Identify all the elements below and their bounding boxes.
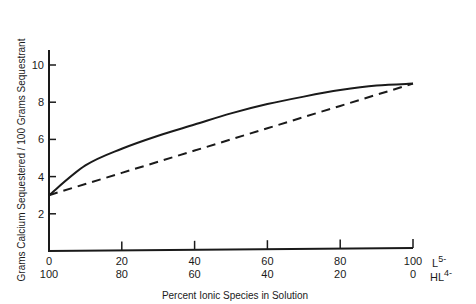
x-species-secondary: HL4- <box>430 268 452 283</box>
y-ticks: 246810 <box>32 59 56 220</box>
x-axis <box>48 248 413 251</box>
y-tick-label: 8 <box>38 96 44 108</box>
chart: 246810 010020804060604080201000 L5- HL4-… <box>0 0 476 304</box>
x-species-primary: L5- <box>432 254 446 269</box>
x-tick-label-primary: 40 <box>188 255 200 267</box>
y-tick-label: 10 <box>32 59 44 71</box>
y-tick: 2 <box>38 208 56 220</box>
x-tick-label-primary: 20 <box>116 255 128 267</box>
x-axis-title: Percent Ionic Species in Solution <box>162 290 308 301</box>
x-tick: 2080 <box>116 241 128 280</box>
x-tick-label-secondary: 60 <box>188 268 200 280</box>
y-tick-label: 2 <box>38 208 44 220</box>
x-tick-label-primary: 0 <box>46 255 52 267</box>
x-tick-label-primary: 60 <box>261 255 273 267</box>
x-tick-label-secondary: 100 <box>40 268 58 280</box>
y-tick: 10 <box>32 59 56 71</box>
x-tick: 0100 <box>40 255 58 280</box>
series-layer <box>49 84 413 196</box>
x-tick-label-secondary: 80 <box>116 268 128 280</box>
y-tick: 8 <box>38 96 56 108</box>
y-tick: 6 <box>38 133 56 145</box>
x-tick-label-primary: 80 <box>334 255 346 267</box>
x-ticks: 010020804060604080201000 <box>40 239 422 280</box>
dashed-line <box>49 84 413 196</box>
x-tick: 1000 <box>404 239 422 280</box>
x-tick-label-secondary: 20 <box>334 268 346 280</box>
y-tick-label: 4 <box>38 171 44 183</box>
x-tick: 6040 <box>261 240 273 280</box>
x-tick-label-primary: 100 <box>404 255 422 267</box>
x-tick: 4060 <box>188 241 200 280</box>
x-tick-label-secondary: 0 <box>410 268 416 280</box>
x-tick-label-secondary: 40 <box>261 268 273 280</box>
y-tick: 4 <box>38 171 56 183</box>
y-tick-label: 6 <box>38 133 44 145</box>
x-tick: 8020 <box>334 240 346 280</box>
y-axis-title: Grams Calcium Sequestered / 100 Grams Se… <box>16 38 27 281</box>
